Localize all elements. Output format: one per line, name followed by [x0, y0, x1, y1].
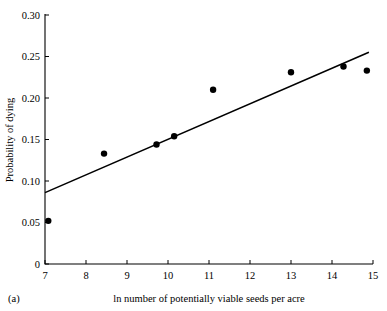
x-tick-label-10: 10 [163, 270, 174, 281]
regression-fit-line [45, 52, 369, 192]
data-point [210, 87, 216, 93]
y-tick-label-0.20: 0.20 [22, 93, 40, 104]
y-tick-label-0.05: 0.05 [22, 217, 40, 228]
axis-spines [45, 14, 373, 264]
figure-panel: 789101112131415 00.050.100.150.200.250.3… [0, 0, 387, 311]
x-tick-label-7: 7 [42, 270, 47, 281]
x-tick-label-9: 9 [124, 270, 129, 281]
y-axis-label: Probability of dying [4, 97, 15, 182]
x-tick-label-14: 14 [327, 270, 338, 281]
data-point [171, 133, 177, 139]
x-tick-label-15: 15 [368, 270, 379, 281]
axes [45, 14, 373, 264]
data-point [45, 218, 51, 224]
data-point [340, 63, 346, 69]
panel-label: (a) [8, 293, 20, 305]
data-point [101, 150, 107, 156]
y-tick-label-0.15: 0.15 [22, 134, 40, 145]
x-tick-label-11: 11 [204, 270, 214, 281]
tick-marks [45, 15, 373, 264]
y-tick-label-0.10: 0.10 [22, 176, 40, 187]
data-point [364, 67, 370, 73]
y-tick-labels: 00.050.100.150.200.250.30 [22, 10, 40, 270]
data-point [288, 69, 294, 75]
regression-line [45, 52, 369, 192]
x-tick-label-8: 8 [83, 270, 88, 281]
x-tick-label-12: 12 [245, 270, 256, 281]
y-tick-label-0: 0 [35, 259, 40, 270]
x-axis-label: ln number of potentially viable seeds pe… [113, 293, 305, 304]
y-tick-label-0.25: 0.25 [22, 51, 40, 62]
x-tick-label-13: 13 [286, 270, 297, 281]
y-tick-label-0.30: 0.30 [22, 10, 40, 21]
x-tick-labels: 789101112131415 [42, 270, 378, 281]
data-point [153, 141, 159, 147]
data-points [45, 63, 370, 224]
scatter-plot: 789101112131415 00.050.100.150.200.250.3… [0, 0, 387, 311]
